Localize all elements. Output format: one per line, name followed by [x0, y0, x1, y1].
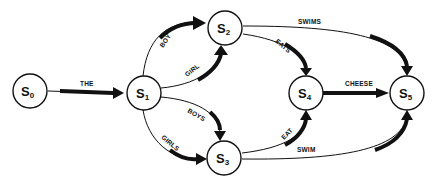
- node-s3: S3: [207, 141, 241, 175]
- node-s2: S2: [208, 11, 242, 45]
- transition-network-diagram: THE BOY GIRL BOYS GIRLS EATS: [0, 0, 439, 181]
- edge-swim: SWIM: [242, 110, 413, 159]
- edge-label-eats: EATS: [274, 37, 292, 54]
- edge-the: THE: [48, 80, 124, 99]
- edge-label-the: THE: [80, 80, 94, 87]
- node-s0: S0: [13, 74, 47, 108]
- edge-cheese: CHEESE: [323, 80, 389, 98]
- edge-swims: SWIMS: [243, 18, 413, 76]
- edge-boys: BOYS: [161, 97, 226, 141]
- edge-eats: EATS: [243, 34, 312, 76]
- edge-girl: GIRL: [161, 45, 228, 88]
- node-s1: S1: [127, 76, 161, 110]
- edge-label-swims: SWIMS: [298, 18, 321, 25]
- node-s5: S5: [390, 76, 424, 110]
- node-s4: S4: [289, 76, 323, 110]
- edge-label-cheese: CHEESE: [345, 80, 373, 87]
- edge-label-girl: GIRL: [183, 62, 200, 78]
- edge-label-swim: SWIM: [297, 146, 316, 153]
